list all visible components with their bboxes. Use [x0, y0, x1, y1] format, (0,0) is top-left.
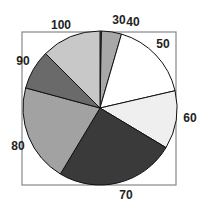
slice-label-60: 60 — [183, 111, 197, 125]
slice-label-30: 30 — [112, 13, 126, 27]
pie-slices — [23, 31, 177, 185]
slice-label-70: 70 — [119, 188, 133, 202]
pie-chart: 30405060708090100 — [0, 0, 203, 210]
slice-label-50: 50 — [156, 37, 170, 51]
slice-label-80: 80 — [11, 139, 25, 153]
slice-label-40: 40 — [126, 15, 140, 29]
slice-label-100: 100 — [51, 18, 71, 32]
slice-label-90: 90 — [16, 54, 30, 68]
